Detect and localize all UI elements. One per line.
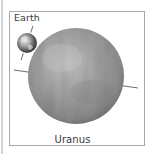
uranus-planet [28,28,124,124]
earth-label: Earth [14,12,40,23]
earth-planet [16,32,38,54]
uranus-label: Uranus [0,134,147,145]
planet-comparison-diagram [0,0,149,154]
